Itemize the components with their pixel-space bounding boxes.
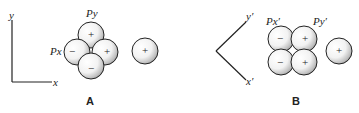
axes-b (216, 22, 246, 80)
axis-label-y-prime: y′ (246, 11, 253, 22)
panel-label-a: A (86, 95, 94, 107)
s-orbital-sign-b: + (336, 45, 342, 56)
p-orbitals-b (268, 26, 317, 75)
orbital-label-px-prime: Px′ (266, 16, 280, 27)
axis-label-x-prime: x′ (246, 76, 253, 87)
lobe-sign-right: + (104, 46, 110, 57)
orbital-label-py: Py (86, 8, 98, 19)
lobe-sign-bottom-right: + (302, 57, 308, 68)
lobe-sign-bottom: − (88, 63, 94, 74)
lobe-sign-top: + (88, 29, 94, 40)
s-orbital-sign: + (142, 45, 148, 56)
lobe-sign-left: − (69, 46, 75, 57)
axis-label-y: y (9, 10, 14, 21)
panel-label-b: B (292, 95, 300, 107)
axis-label-x: x (53, 77, 58, 88)
lobe-sign-top-right: + (302, 33, 308, 44)
orbital-label-py-prime: Py′ (313, 16, 327, 27)
axes-a (12, 20, 52, 82)
lobe-sign-bottom-left: − (277, 57, 283, 68)
lobe-sign-top-left: − (277, 33, 283, 44)
orbital-label-px: Px (50, 46, 62, 57)
